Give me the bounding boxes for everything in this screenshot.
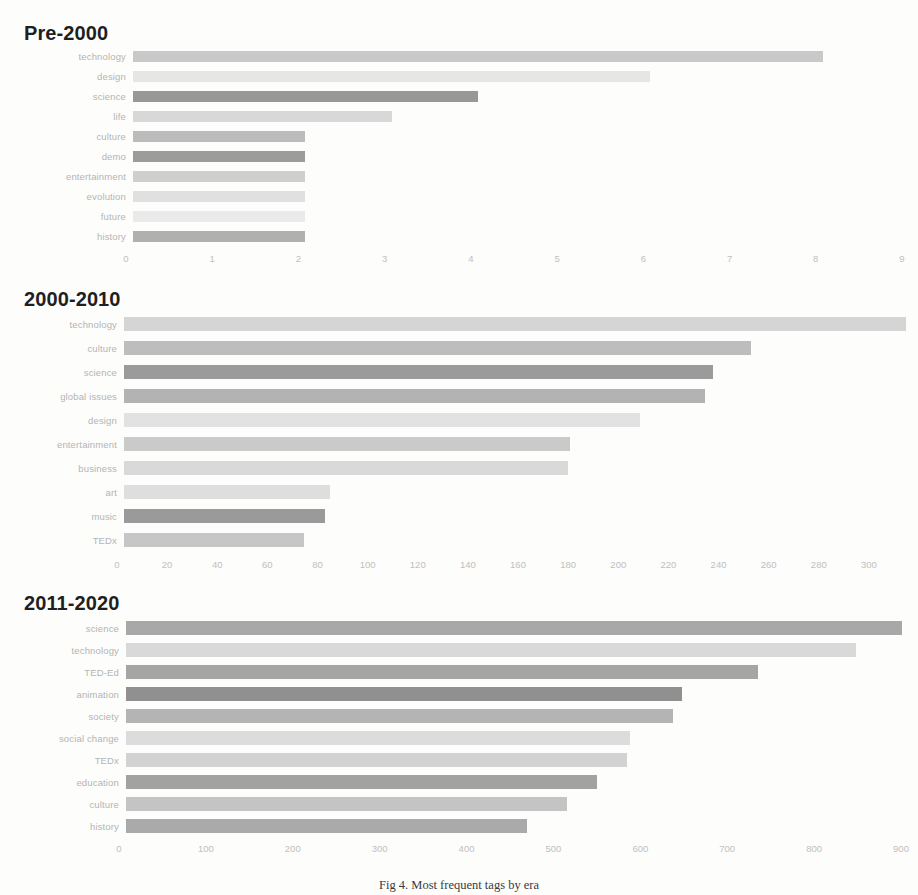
bar — [124, 389, 705, 403]
bar-category-label: culture — [0, 131, 133, 142]
x-tick-label: 220 — [660, 559, 676, 570]
x-tick-label: 500 — [546, 843, 562, 854]
bar-row: design — [0, 413, 918, 427]
bar-category-label: science — [0, 623, 126, 634]
bar-row: science — [0, 365, 918, 379]
x-axis-1: 0204060801001201401601802002202402602803… — [117, 557, 918, 575]
bar-track — [133, 91, 918, 102]
chart-panel-pre-2000: Pre-2000 technologydesignsciencelifecult… — [0, 22, 918, 269]
chart-plot-2: sciencetechnologyTED-Edanimationsocietys… — [0, 621, 918, 859]
chart-title-0: Pre-2000 — [24, 22, 918, 45]
bar-row: music — [0, 509, 918, 523]
x-tick-label: 0 — [116, 843, 121, 854]
bar — [124, 485, 330, 499]
bar-row: art — [0, 485, 918, 499]
figure-page: Pre-2000 technologydesignsciencelifecult… — [0, 0, 918, 895]
bar-category-label: demo — [0, 151, 133, 162]
x-tick-label: 3 — [382, 253, 387, 264]
bar — [124, 365, 713, 379]
bar-track — [124, 533, 918, 547]
bar-track — [124, 389, 918, 403]
x-tick-label: 9 — [899, 253, 904, 264]
bar-row: technology — [0, 643, 918, 657]
bar-category-label: technology — [0, 319, 124, 330]
bar-row: history — [0, 231, 918, 242]
bar-track — [126, 665, 918, 679]
x-tick-label: 200 — [610, 559, 626, 570]
bar-row: future — [0, 211, 918, 222]
bar-row: society — [0, 709, 918, 723]
bar-category-label: technology — [0, 51, 133, 62]
bar-track — [126, 797, 918, 811]
x-tick-label: 600 — [632, 843, 648, 854]
bar-category-label: life — [0, 111, 133, 122]
bar-track — [133, 131, 918, 142]
bar-row: TED-Ed — [0, 665, 918, 679]
x-tick-label: 700 — [719, 843, 735, 854]
bar-rows-2: sciencetechnologyTED-Edanimationsocietys… — [0, 621, 918, 833]
x-tick-label: 800 — [806, 843, 822, 854]
bar-category-label: music — [0, 511, 124, 522]
bar-row: life — [0, 111, 918, 122]
bar-row: culture — [0, 341, 918, 355]
x-tick-label: 260 — [761, 559, 777, 570]
bar — [133, 71, 650, 82]
bar-category-label: design — [0, 71, 133, 82]
bar-row: TEDx — [0, 533, 918, 547]
bar — [126, 687, 682, 701]
bar-track — [133, 171, 918, 182]
bar-rows-0: technologydesignsciencelifeculturedemoen… — [0, 51, 918, 242]
bar — [124, 437, 570, 451]
bar-track — [126, 731, 918, 745]
bar — [124, 509, 325, 523]
bar-category-label: art — [0, 487, 124, 498]
bar — [126, 731, 630, 745]
bar — [126, 665, 758, 679]
x-tick-label: 200 — [285, 843, 301, 854]
bar-category-label: TED-Ed — [0, 667, 126, 678]
bar-row: technology — [0, 51, 918, 62]
bar — [133, 151, 305, 162]
bar — [126, 621, 902, 635]
bar-row: technology — [0, 317, 918, 331]
bar-track — [126, 709, 918, 723]
bar — [124, 461, 568, 475]
bar-track — [124, 509, 918, 523]
bar — [126, 775, 597, 789]
x-tick-label: 900 — [893, 843, 909, 854]
bar-row: evolution — [0, 191, 918, 202]
bar-category-label: social change — [0, 733, 126, 744]
x-tick-label: 140 — [460, 559, 476, 570]
x-tick-label: 20 — [162, 559, 173, 570]
bar — [126, 819, 527, 833]
bar-category-label: business — [0, 463, 124, 474]
bar-category-label: entertainment — [0, 171, 133, 182]
x-tick-label: 80 — [312, 559, 323, 570]
x-tick-label: 0 — [123, 253, 128, 264]
x-tick-label: 40 — [212, 559, 223, 570]
bar-track — [124, 365, 918, 379]
x-tick-label: 8 — [813, 253, 818, 264]
x-tick-label: 4 — [468, 253, 473, 264]
x-tick-label: 160 — [510, 559, 526, 570]
bar-track — [126, 819, 918, 833]
bar-track — [124, 461, 918, 475]
x-tick-label: 100 — [360, 559, 376, 570]
bar — [133, 171, 305, 182]
bar-track — [133, 71, 918, 82]
bar — [126, 753, 627, 767]
chart-plot-0: technologydesignsciencelifeculturedemoen… — [0, 51, 918, 269]
bar-track — [126, 621, 918, 635]
bar-track — [126, 643, 918, 657]
bar-category-label: society — [0, 711, 126, 722]
bar-category-label: education — [0, 777, 126, 788]
bar-row: culture — [0, 797, 918, 811]
chart-plot-1: technologyculturescienceglobal issuesdes… — [0, 317, 918, 575]
x-tick-label: 7 — [727, 253, 732, 264]
x-tick-label: 100 — [198, 843, 214, 854]
bar-row: entertainment — [0, 171, 918, 182]
bar — [133, 191, 305, 202]
bar — [126, 643, 856, 657]
chart-panel-2000-2010: 2000-2010 technologyculturescienceglobal… — [0, 288, 918, 575]
bar — [133, 51, 823, 62]
